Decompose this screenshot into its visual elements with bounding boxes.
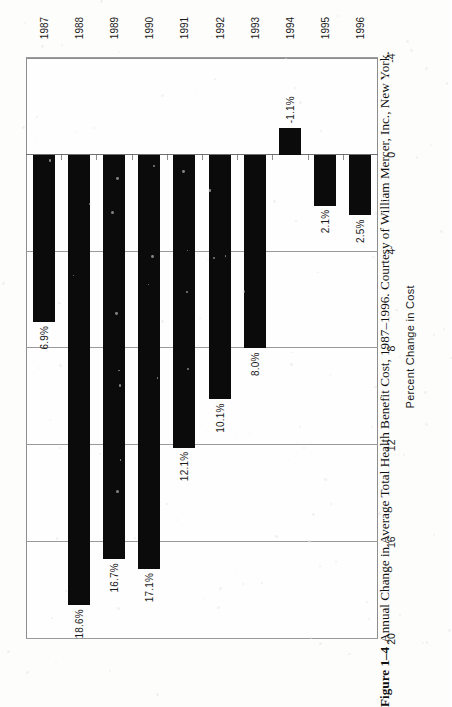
scan-speck bbox=[337, 15, 339, 17]
bar bbox=[68, 155, 90, 605]
scan-speck bbox=[395, 309, 397, 311]
category-minor-tick bbox=[167, 155, 168, 160]
category-minor-tick bbox=[202, 155, 203, 160]
scan-speck bbox=[319, 642, 322, 645]
bar-value-label: 2.1% bbox=[320, 210, 331, 240]
scan-speck bbox=[61, 44, 63, 46]
category-label-1992: 1992 bbox=[214, 8, 225, 48]
scan-speck bbox=[117, 607, 120, 610]
scan-speck bbox=[433, 334, 434, 335]
scan-speck bbox=[36, 143, 37, 144]
scan-speck bbox=[214, 78, 216, 80]
scan-speck bbox=[440, 230, 443, 233]
scan-speck bbox=[116, 177, 119, 180]
category-minor-tick bbox=[96, 155, 97, 160]
scan-speck bbox=[235, 433, 236, 434]
bar bbox=[103, 155, 125, 559]
scan-speck bbox=[348, 653, 350, 655]
category-label-1994: 1994 bbox=[285, 8, 296, 48]
scan-speck bbox=[399, 356, 401, 358]
scan-speck bbox=[242, 583, 244, 585]
scan-speck bbox=[177, 519, 179, 521]
scan-speck bbox=[424, 391, 427, 394]
scan-speck bbox=[111, 211, 114, 214]
scan-speck bbox=[41, 45, 44, 48]
scan-speck bbox=[166, 503, 168, 505]
scan-speck bbox=[38, 367, 39, 368]
scan-speck bbox=[219, 587, 222, 590]
scan-speck bbox=[410, 49, 413, 52]
bar-value-label: -1.1% bbox=[285, 96, 296, 123]
bar-value-label: 16.7% bbox=[109, 563, 120, 593]
scan-speck bbox=[288, 460, 289, 461]
scan-speck bbox=[426, 641, 428, 643]
scan-speck bbox=[291, 352, 292, 353]
scan-speck bbox=[443, 328, 445, 330]
bar bbox=[209, 155, 231, 400]
bar-value-label: 10.1% bbox=[214, 403, 225, 433]
scan-speck bbox=[386, 200, 389, 203]
scan-speck bbox=[371, 426, 373, 428]
bar-value-label: 6.9% bbox=[38, 326, 49, 356]
figure-caption-label: Figure 1–4 bbox=[377, 647, 393, 707]
scan-speck bbox=[290, 363, 292, 365]
scan-speck bbox=[384, 75, 387, 78]
figure-caption-text: Annual Change in Average Total Health Be… bbox=[377, 51, 393, 642]
scan-speck bbox=[151, 255, 154, 258]
category-label-1991: 1991 bbox=[179, 8, 190, 48]
scan-speck bbox=[416, 156, 418, 158]
scan-speck bbox=[225, 255, 226, 256]
figure-caption: Figure 1–4 Annual Change in Average Tota… bbox=[405, 0, 445, 707]
category-minor-tick bbox=[343, 155, 344, 160]
bar-value-label: 8.0% bbox=[249, 353, 260, 383]
scan-speck bbox=[294, 87, 296, 89]
bar bbox=[138, 155, 160, 569]
scan-speck bbox=[49, 420, 50, 421]
category-minor-tick bbox=[272, 155, 273, 160]
scan-speck bbox=[261, 582, 262, 583]
bar bbox=[173, 155, 195, 448]
chart-plot-area bbox=[26, 58, 378, 639]
scan-speck bbox=[59, 364, 61, 366]
scan-speck bbox=[153, 165, 155, 167]
category-label-1989: 1989 bbox=[109, 8, 120, 48]
bar-value-label: 18.6% bbox=[73, 609, 84, 639]
category-label-1995: 1995 bbox=[320, 8, 331, 48]
bar bbox=[244, 155, 266, 349]
scan-speck bbox=[335, 561, 337, 563]
bar-value-label: 12.1% bbox=[179, 452, 190, 482]
bar bbox=[33, 155, 55, 322]
category-minor-tick bbox=[132, 155, 133, 160]
category-minor-tick bbox=[61, 155, 62, 160]
scan-speck bbox=[36, 116, 38, 118]
scan-speck bbox=[260, 24, 262, 26]
scan-speck bbox=[422, 642, 424, 644]
scan-speck bbox=[406, 40, 409, 43]
bar-value-label: 17.1% bbox=[144, 573, 155, 603]
scan-speck bbox=[324, 478, 327, 481]
scan-speck bbox=[157, 377, 158, 378]
scan-speck bbox=[119, 384, 122, 387]
category-label-1988: 1988 bbox=[73, 8, 84, 48]
category-label-1990: 1990 bbox=[144, 8, 155, 48]
scan-speck bbox=[242, 290, 245, 293]
scan-speck bbox=[448, 629, 451, 632]
scan-speck bbox=[22, 126, 25, 129]
scan-speck bbox=[187, 368, 189, 370]
scan-speck bbox=[274, 404, 275, 405]
scan-speck bbox=[182, 170, 185, 173]
scan-speck bbox=[372, 256, 374, 258]
scan-speck bbox=[446, 82, 449, 85]
category-minor-tick bbox=[237, 155, 238, 160]
scan-speck bbox=[78, 20, 80, 22]
scan-speck bbox=[65, 590, 66, 591]
scan-speck bbox=[378, 512, 381, 515]
bar bbox=[314, 155, 336, 206]
bar bbox=[279, 128, 301, 155]
category-label-1987: 1987 bbox=[38, 8, 49, 48]
category-minor-tick bbox=[308, 155, 309, 160]
scan-speck bbox=[208, 189, 210, 191]
category-label-1993: 1993 bbox=[249, 8, 260, 48]
scan-speck bbox=[299, 101, 302, 104]
